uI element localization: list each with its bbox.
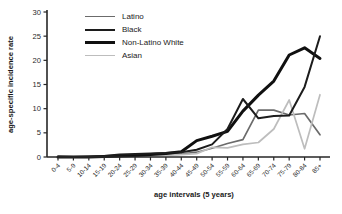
x-tick-label: 85+ (311, 162, 324, 175)
x-tick-label: 70-74 (260, 161, 277, 178)
x-tick-label: 55-59 (214, 161, 231, 178)
x-tick-label: 0-4 (50, 161, 62, 173)
legend-label: Black (122, 26, 142, 34)
x-tick-label: 35-39 (153, 161, 170, 178)
y-tick-label: 20 (33, 56, 41, 65)
x-tick-label: 10-14 (76, 161, 93, 178)
x-tick-label: 40-44 (168, 161, 185, 178)
x-tick-label: 75-79 (276, 161, 293, 178)
legend-item-black: Black (85, 23, 184, 36)
series-line-non-latino-white (58, 48, 320, 157)
chart-legend: LatinoBlackNon-Latino WhiteAsian (85, 10, 184, 62)
x-tick-label: 45-49 (183, 161, 200, 178)
x-tick-label: 50-54 (199, 161, 216, 178)
x-tick-label: 20-24 (106, 161, 123, 178)
x-tick-label: 15-19 (91, 161, 108, 178)
x-tick-label: 5-9 (65, 161, 77, 173)
x-axis-title: age intervals (5 years) (154, 190, 234, 199)
x-tick-label: 80-84 (291, 161, 308, 178)
y-tick-label: 15 (33, 80, 41, 89)
y-tick-label: 0 (37, 153, 41, 162)
legend-line-sample (85, 41, 115, 44)
y-axis-title: age-specific incidence rate (6, 36, 15, 133)
x-tick-label: 60-64 (230, 161, 247, 178)
legend-line-sample (85, 16, 115, 17)
x-tick-label: 25-29 (122, 161, 139, 178)
legend-label: Latino (122, 13, 144, 21)
legend-item-latino: Latino (85, 10, 184, 23)
y-tick-label: 30 (33, 8, 41, 17)
y-tick-label: 10 (33, 104, 41, 113)
legend-item-asian: Asian (85, 49, 184, 62)
legend-line-sample (85, 29, 115, 31)
x-tick-label: 65-69 (245, 161, 262, 178)
legend-label: Asian (122, 52, 142, 60)
legend-label: Non-Latino White (122, 39, 184, 47)
legend-line-sample (85, 55, 115, 56)
x-tick-label: 30-34 (137, 161, 154, 178)
y-tick-label: 5 (37, 128, 41, 137)
y-tick-label: 25 (33, 32, 41, 41)
legend-item-non-latino-white: Non-Latino White (85, 36, 184, 49)
incidence-line-chart: 0510152025300-45-910-1415-1920-2425-2930… (0, 0, 342, 214)
